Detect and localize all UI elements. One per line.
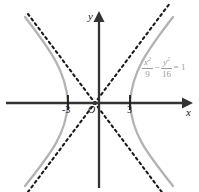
axis-group: [6, 11, 193, 188]
plot-canvas: [0, 0, 199, 192]
equation-second-numerator: y2: [162, 56, 171, 67]
equation-second-denominator: 16: [161, 70, 172, 79]
y-axis-arrowhead: [94, 11, 105, 22]
origin-label: O: [88, 104, 95, 115]
x-tick-label-positive-3: 3: [127, 104, 132, 115]
hyperbola-equation-label: x2 9 − y2 16 = 1: [142, 56, 187, 80]
x-axis-label: x: [186, 106, 191, 118]
equation-first-numerator: x2: [143, 56, 152, 67]
hyperbola-left-branch: [25, 17, 68, 186]
hyperbola-figure: y x -3 3 O x2 9 − y2 16 = 1: [0, 0, 199, 192]
equation-second-numerator-exponent: 2: [167, 56, 170, 62]
equation-second-fraction: y2 16: [161, 56, 172, 80]
equation-operator: −: [155, 63, 160, 72]
equation-first-denominator: 9: [144, 70, 151, 79]
x-tick-label-negative-3: -3: [62, 104, 70, 115]
equation-first-numerator-exponent: 2: [148, 56, 151, 62]
equation-equals-one: = 1: [174, 63, 186, 72]
equation-first-fraction: x2 9: [142, 56, 153, 80]
hyperbola-right-branch: [130, 17, 173, 186]
y-axis-label: y: [88, 10, 93, 22]
